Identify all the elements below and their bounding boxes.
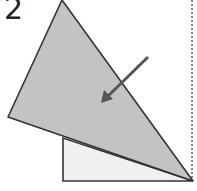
step-number: 2	[4, 0, 23, 24]
diagram-canvas	[0, 0, 197, 191]
folding-diagram: 2	[0, 0, 197, 191]
